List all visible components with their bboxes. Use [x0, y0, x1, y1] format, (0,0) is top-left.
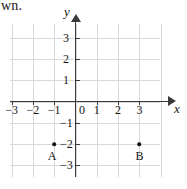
y-axis-label: y	[64, 5, 70, 18]
y-axis-tick	[76, 38, 80, 39]
x-axis-tick-label: 3	[136, 104, 142, 116]
grid-line-horizontal	[10, 165, 160, 166]
y-axis-tick-label: 3	[63, 32, 69, 44]
x-axis-tick-label: 1	[94, 104, 100, 116]
data-point-a[interactable]	[52, 142, 56, 146]
y-axis-tick	[76, 59, 80, 60]
y-axis-tick	[76, 123, 80, 124]
data-point-label-b: B	[135, 150, 143, 162]
x-axis-tick-label: −1	[48, 104, 61, 116]
y-axis-line	[75, 21, 76, 177]
y-axis-arrowhead	[71, 14, 81, 22]
y-axis-tick	[76, 80, 80, 81]
x-axis-tick-label: −3	[5, 104, 18, 116]
x-axis-tick-label: 2	[115, 104, 121, 116]
coordinate-plane-figure: x y 0 −3−2−1123321−1−2−3AB	[0, 0, 187, 189]
y-axis-tick	[76, 165, 80, 166]
grid-line-horizontal	[10, 38, 160, 39]
data-point-b[interactable]	[138, 142, 142, 146]
y-axis-tick-label: 1	[63, 74, 69, 86]
y-axis-tick	[76, 144, 80, 145]
grid-line-horizontal	[10, 59, 160, 60]
x-axis-label: x	[174, 102, 180, 115]
origin-label: 0	[79, 104, 85, 116]
y-axis-tick-label: −1	[60, 117, 73, 129]
y-axis-tick-label: −3	[60, 159, 73, 171]
grid-line-horizontal	[10, 80, 160, 81]
grid-line-horizontal	[10, 123, 160, 124]
data-point-label-a: A	[48, 150, 57, 162]
y-axis-tick-label: −2	[60, 138, 73, 150]
y-axis-tick-label: 2	[63, 53, 69, 65]
x-axis-tick-label: −2	[27, 104, 40, 116]
